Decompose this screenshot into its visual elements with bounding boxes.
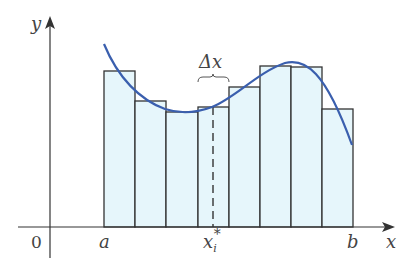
delta-x-brace bbox=[198, 74, 229, 82]
sample-point-label: xi* bbox=[203, 226, 221, 255]
origin-label: 0 bbox=[31, 232, 42, 252]
delta-x-label: Δx bbox=[198, 51, 222, 72]
x-axis-label: x bbox=[386, 231, 396, 252]
riemann-rectangle-2 bbox=[135, 101, 166, 227]
riemann-rectangle-1 bbox=[104, 71, 135, 227]
riemann-sum-diagram: y x 0 a b Δx xi* bbox=[0, 0, 420, 270]
interval-end-label: b bbox=[347, 231, 359, 252]
riemann-rectangles bbox=[104, 66, 353, 227]
riemann-rectangle-5 bbox=[229, 87, 260, 227]
interval-start-label: a bbox=[99, 231, 110, 252]
sample-point-x: x bbox=[203, 231, 213, 252]
sample-point-superscript: * bbox=[214, 226, 221, 242]
y-axis-label: y bbox=[30, 13, 42, 34]
riemann-rectangle-8 bbox=[322, 109, 353, 227]
riemann-rectangle-3 bbox=[166, 112, 198, 227]
sample-point-subscript: i bbox=[213, 242, 217, 255]
riemann-rectangle-7 bbox=[291, 67, 322, 227]
riemann-rectangle-6 bbox=[260, 66, 291, 227]
